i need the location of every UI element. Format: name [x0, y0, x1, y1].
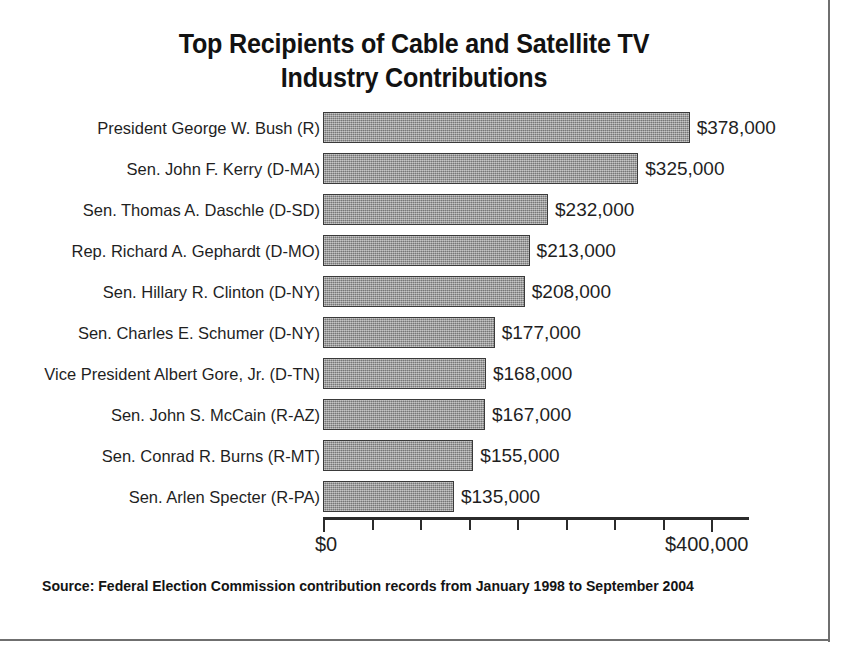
category-label: Vice President Albert Gore, Jr. (D-TN) — [44, 364, 320, 383]
bar — [323, 235, 530, 266]
bar-value-label: $155,000 — [480, 445, 559, 467]
x-axis-max-label: $400,000 — [665, 533, 748, 556]
bar-value-label: $213,000 — [537, 240, 616, 262]
bar — [323, 399, 485, 430]
x-axis-line — [323, 517, 749, 520]
bar-value-label: $135,000 — [461, 486, 540, 508]
bar — [323, 112, 690, 143]
bar-value-label: $325,000 — [645, 158, 724, 180]
category-label: Sen. John F. Kerry (D-MA) — [127, 159, 320, 178]
bar-row: President George W. Bush (R)$378,000 — [0, 112, 828, 143]
x-axis-tick — [517, 520, 519, 530]
x-axis-tick — [566, 520, 568, 530]
chart-title-line-2: Industry Contributions — [29, 62, 799, 96]
bar-row: Sen. Thomas A. Daschle (D-SD)$232,000 — [0, 194, 828, 225]
bar-value-label: $177,000 — [502, 322, 581, 344]
x-axis-tick — [711, 520, 713, 532]
chart-title-line-1: Top Recipients of Cable and Satellite TV — [29, 28, 799, 62]
bar — [323, 153, 638, 184]
bar — [323, 317, 495, 348]
category-label: Sen. John S. McCain (R-AZ) — [111, 405, 320, 424]
category-label: Sen. Arlen Specter (R-PA) — [129, 487, 320, 506]
bar — [323, 194, 548, 225]
bar-row: Sen. Arlen Specter (R-PA)$135,000 — [0, 481, 828, 512]
x-axis-min-label: $0 — [315, 533, 337, 556]
bar-row: Sen. Hillary R. Clinton (D-NY)$208,000 — [0, 276, 828, 307]
bar — [323, 440, 473, 471]
bar — [323, 358, 486, 389]
plot-area: President George W. Bush (R)$378,000Sen.… — [0, 112, 828, 522]
x-axis-tick — [469, 520, 471, 530]
source-note: Source: Federal Election Commission cont… — [42, 578, 694, 594]
bar-row: Sen. Conrad R. Burns (R-MT)$155,000 — [0, 440, 828, 471]
bar-row: Sen. John S. McCain (R-AZ)$167,000 — [0, 399, 828, 430]
bar-row: Sen. John F. Kerry (D-MA)$325,000 — [0, 153, 828, 184]
category-label: Sen. Hillary R. Clinton (D-NY) — [103, 282, 320, 301]
bar-row: Rep. Richard A. Gephardt (D-MO)$213,000 — [0, 235, 828, 266]
bar-value-label: $232,000 — [555, 199, 634, 221]
bar-value-label: $378,000 — [697, 117, 776, 139]
category-label: President George W. Bush (R) — [97, 118, 320, 137]
bar-value-label: $168,000 — [493, 363, 572, 385]
bar — [323, 276, 525, 307]
bar-value-label: $167,000 — [492, 404, 571, 426]
bar-row: Vice President Albert Gore, Jr. (D-TN)$1… — [0, 358, 828, 389]
x-axis-tick — [663, 520, 665, 530]
bar — [323, 481, 454, 512]
category-label: Sen. Conrad R. Burns (R-MT) — [102, 446, 320, 465]
x-axis-tick — [420, 520, 422, 530]
category-label: Sen. Thomas A. Daschle (D-SD) — [83, 200, 320, 219]
page-frame-right-rule — [828, 0, 830, 642]
bar-row: Sen. Charles E. Schumer (D-NY)$177,000 — [0, 317, 828, 348]
x-axis-tick — [614, 520, 616, 530]
category-label: Sen. Charles E. Schumer (D-NY) — [78, 323, 320, 342]
category-label: Rep. Richard A. Gephardt (D-MO) — [72, 241, 321, 260]
x-axis-tick — [372, 520, 374, 530]
chart-title: Top Recipients of Cable and Satellite TV… — [29, 28, 799, 96]
page-frame-bottom-rule — [0, 639, 830, 641]
bar-value-label: $208,000 — [532, 281, 611, 303]
x-axis-tick — [323, 520, 325, 532]
chart-figure: Top Recipients of Cable and Satellite TV… — [0, 0, 846, 653]
